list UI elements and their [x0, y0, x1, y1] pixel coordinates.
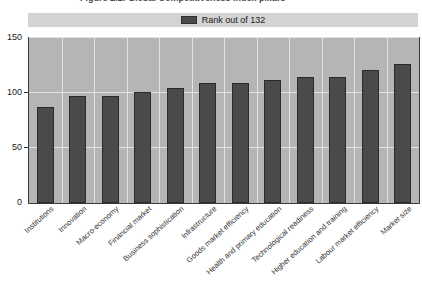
x-axis-tick-label: Labour market efficiency [315, 205, 381, 265]
bar [69, 96, 86, 203]
x-axis-labels: InstitutionsInnovationMacro-economyFinan… [0, 205, 422, 304]
bar [134, 92, 151, 203]
bar [199, 83, 216, 203]
x-axis-tick-label: Institutions [24, 205, 56, 235]
bar-series [29, 38, 419, 203]
bar [329, 77, 346, 204]
y-axis-tick-label: 150 [7, 33, 22, 42]
x-axis-tick-label: Business sophistication [122, 205, 185, 263]
x-axis-tick-label: Goods market efficiency [186, 205, 251, 264]
bar [394, 64, 411, 203]
bar [102, 96, 119, 203]
bar [37, 107, 54, 203]
y-axis-tick-label: 50 [12, 143, 22, 152]
bar [297, 77, 314, 204]
bar [167, 88, 184, 204]
x-axis-tick-label: Technological readiness [251, 205, 316, 264]
y-axis-tick-label: 100 [7, 88, 22, 97]
x-axis-tick-label: Market size [379, 205, 413, 236]
chart-container: 050100150 InstitutionsInnovationMacro-ec… [0, 0, 422, 304]
bar [264, 80, 281, 203]
plot-area [28, 37, 420, 204]
x-axis-tick-label: Innovation [57, 205, 88, 234]
bar [362, 70, 379, 203]
bar [232, 83, 249, 203]
